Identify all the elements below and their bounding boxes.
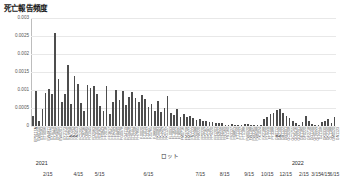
- bar: [225, 125, 227, 126]
- x-axis-date-row: 2/154/155/156/157/158/159/1510/1512/152/…: [0, 171, 340, 181]
- bar: [282, 113, 284, 126]
- x-axis-date-tick: 10/15: [261, 171, 274, 177]
- bar-series: [31, 18, 336, 126]
- bar: [234, 125, 236, 126]
- bar: [318, 125, 320, 126]
- bar: [90, 88, 92, 126]
- bar: [186, 117, 188, 126]
- x-axis-date-tick: 7/15: [195, 171, 205, 177]
- bar: [221, 123, 223, 126]
- y-axis-tick-label: 0.001: [18, 87, 30, 92]
- bar: [96, 94, 98, 126]
- bar: [167, 96, 169, 126]
- bar: [305, 116, 307, 126]
- bar: [212, 122, 214, 126]
- x-axis-date-tick: 2/15: [43, 171, 53, 177]
- bar: [48, 89, 50, 126]
- bar: [276, 110, 278, 126]
- bar: [148, 107, 150, 126]
- x-axis-year-label: 2022: [292, 160, 304, 166]
- bar: [32, 116, 34, 126]
- bar: [83, 111, 85, 126]
- bar: [176, 109, 178, 126]
- bar: [173, 115, 175, 126]
- bar: [205, 121, 207, 126]
- bar: [61, 102, 63, 126]
- bar: [314, 125, 316, 126]
- bar: [237, 125, 239, 126]
- bar: [231, 124, 233, 126]
- bar: [125, 105, 127, 126]
- bar: [286, 116, 288, 126]
- bar: [295, 123, 297, 126]
- x-axis-year-row: 20212022: [0, 160, 340, 170]
- bar: [302, 122, 304, 126]
- bar: [253, 125, 255, 126]
- bar: [154, 111, 156, 126]
- bar: [112, 102, 114, 126]
- bar: [160, 112, 162, 126]
- bar: [279, 109, 281, 126]
- bar: [35, 91, 37, 126]
- bar: [331, 123, 333, 126]
- bar: [247, 124, 249, 126]
- x-axis-date-tick: 4/15: [73, 171, 83, 177]
- bar: [67, 65, 69, 126]
- x-axis-date-tick: 6/15: [330, 171, 340, 177]
- bar: [42, 109, 44, 126]
- bar: [228, 125, 230, 126]
- x-axis-label: ロット: [0, 152, 340, 160]
- bar: [131, 92, 133, 126]
- bar: [199, 119, 201, 126]
- bar: [151, 104, 153, 126]
- bar: [64, 94, 66, 126]
- bar: [270, 114, 272, 126]
- bar: [170, 113, 172, 126]
- y-axis-tick-label: 0.002: [18, 51, 30, 56]
- bar: [218, 123, 220, 126]
- bar: [45, 93, 47, 126]
- bar: [324, 121, 326, 126]
- x-axis-year-label: 2021: [36, 160, 48, 166]
- bar: [189, 116, 191, 126]
- x-axis-date-tick: 6/15: [144, 171, 154, 177]
- bar: [292, 121, 294, 126]
- x-axis-date-tick: 12/15: [279, 171, 292, 177]
- bar: [77, 84, 79, 126]
- x-axis-date-tick: 8/15: [220, 171, 230, 177]
- bar: [263, 119, 265, 126]
- bar: [128, 97, 130, 126]
- bar: [215, 123, 217, 126]
- bar: [80, 103, 82, 126]
- bar: [135, 98, 137, 126]
- bar: [250, 125, 252, 126]
- bar: [192, 118, 194, 126]
- bar: [202, 121, 204, 126]
- bar: [93, 86, 95, 126]
- bar: [103, 111, 105, 126]
- x-axis-lot-label: GN1123: [336, 127, 340, 140]
- x-axis-date-tick: 5/15: [95, 171, 105, 177]
- bar: [311, 124, 313, 126]
- bar: [70, 104, 72, 126]
- bar: [244, 124, 246, 126]
- bar: [273, 113, 275, 126]
- bar: [180, 117, 182, 126]
- x-axis-date-tick: 2/15: [299, 171, 309, 177]
- bar: [164, 108, 166, 126]
- bar: [308, 121, 310, 126]
- chart-container: 死亡報告頻度 0.0030.00250.0020.00150.0010.0005…: [0, 0, 340, 185]
- bar: [260, 125, 262, 126]
- bar: [106, 86, 108, 126]
- bar: [115, 90, 117, 126]
- bar: [183, 114, 185, 126]
- y-axis-tick-label: 0: [26, 123, 29, 128]
- bar: [138, 102, 140, 126]
- bar: [38, 121, 40, 126]
- y-axis-tick-label: 0.0025: [15, 33, 29, 38]
- y-axis-tick-label: 0.003: [18, 15, 30, 20]
- bar: [241, 125, 243, 126]
- bar: [209, 122, 211, 126]
- bar: [289, 118, 291, 126]
- plot-area: [31, 18, 336, 126]
